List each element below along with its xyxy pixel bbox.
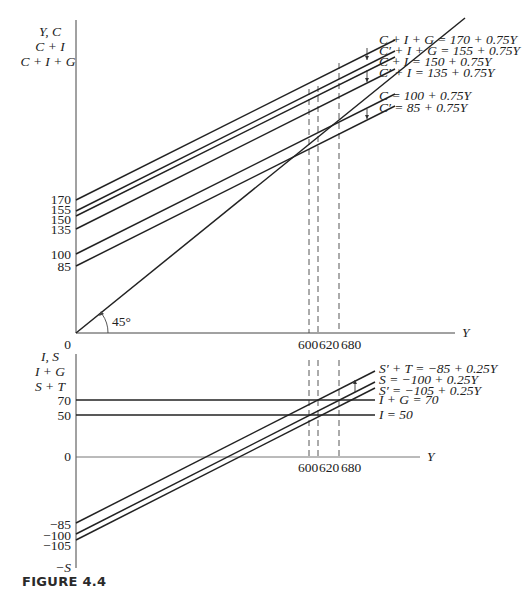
- angle-label: 45°: [112, 314, 131, 329]
- line-c-prime: [76, 106, 395, 266]
- line-s-prime-t: [76, 371, 375, 523]
- line-c: [76, 94, 395, 254]
- bottom-y-axis-title-2: I + G: [34, 364, 65, 379]
- line-c-prime-i-g: [76, 51, 395, 211]
- top-x-tick-620: 620: [319, 337, 340, 352]
- bottom-x-tick-680: 680: [341, 460, 362, 475]
- bottom-y-tick-50: 50: [58, 408, 72, 423]
- top-y-tick-135: 135: [51, 222, 72, 237]
- bottom-y-axis-neg-s: −S: [55, 560, 71, 575]
- bottom-x-axis-title: Y: [427, 449, 436, 464]
- line-s: [76, 382, 375, 534]
- figure-caption: FIGURE 4.4: [22, 574, 106, 589]
- label-i-g: I + G = 70: [378, 392, 439, 407]
- bottom-origin-label: 0: [64, 449, 71, 464]
- top-x-tick-600: 600: [298, 337, 319, 352]
- bottom-panel: I, S I + G S + T 70 50 0 −85 −100 −105 −…: [34, 349, 499, 575]
- shift-arrow-2-head: [365, 78, 369, 82]
- bottom-x-tick-620: 620: [319, 460, 340, 475]
- top-x-axis-title: Y: [462, 325, 471, 340]
- top-y-tick-85: 85: [58, 259, 72, 274]
- bottom-y-axis-title-1: I, S: [40, 349, 59, 364]
- bottom-y-tick-70: 70: [58, 393, 72, 408]
- shift-arrow-1-head: [365, 56, 369, 60]
- bottom-y-axis-title-3: S + T: [35, 379, 67, 394]
- shift-arrow-3-head: [365, 115, 369, 119]
- income-determination-diagram: Y, C C + I C + I + G 170 155 150 135 100…: [0, 0, 525, 595]
- line-c-i-g: [76, 40, 395, 200]
- top-origin-label: 0: [64, 337, 71, 352]
- top-y-axis-title-1: Y, C: [39, 24, 62, 39]
- bottom-x-tick-600: 600: [298, 460, 319, 475]
- top-y-axis-title-3: C + I + G: [21, 54, 76, 69]
- top-x-tick-680: 680: [341, 337, 362, 352]
- line-c-prime-i: [76, 69, 395, 229]
- top-panel: Y, C C + I C + I + G 170 155 150 135 100…: [21, 18, 522, 352]
- angle-arc: [102, 314, 108, 333]
- top-y-axis-title-2: C + I: [35, 39, 66, 54]
- line-c-i: [76, 57, 395, 216]
- label-i: I = 50: [378, 407, 413, 422]
- bottom-y-tick-neg105: −105: [43, 538, 71, 553]
- label-c-prime: C′ = 85 + 0.75Y: [379, 100, 469, 115]
- label-c-prime-i: C′ + I = 135 + 0.75Y: [379, 65, 496, 80]
